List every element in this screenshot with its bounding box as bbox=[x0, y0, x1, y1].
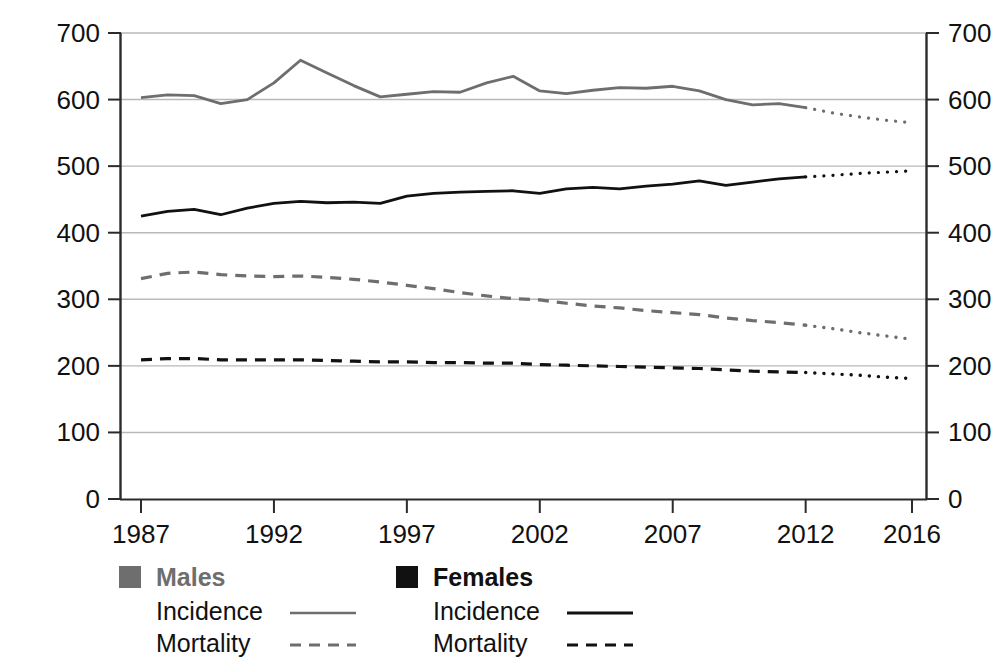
legend-title-females: Females bbox=[433, 563, 533, 591]
x-tick-label-2012: 2012 bbox=[777, 519, 835, 549]
legend-swatch-females bbox=[396, 566, 418, 588]
right-tick-label-300: 300 bbox=[948, 284, 991, 314]
left-tick-label-300: 300 bbox=[57, 284, 100, 314]
series-projection-males-incidence bbox=[806, 108, 912, 123]
series-projection-females-mortality bbox=[806, 373, 912, 379]
right-tick-label-500: 500 bbox=[948, 151, 991, 181]
legend-label-males-incidence: Incidence bbox=[156, 597, 263, 625]
right-tick-label-400: 400 bbox=[948, 218, 991, 248]
data-series-layer bbox=[141, 60, 912, 378]
legend-title-males: Males bbox=[156, 563, 225, 591]
x-tick-label-1987: 1987 bbox=[112, 519, 170, 549]
x-tick-marks bbox=[141, 500, 912, 513]
left-tick-label-500: 500 bbox=[57, 151, 100, 181]
chart-container: 0100200300400500600700 01002003004005006… bbox=[0, 0, 1000, 671]
chart-legend: Males Females Incidence Mortality Incide… bbox=[119, 563, 633, 657]
legend-label-females-incidence: Incidence bbox=[433, 597, 540, 625]
rate-trend-line-chart: 0100200300400500600700 01002003004005006… bbox=[0, 0, 1000, 671]
axis-lines bbox=[120, 33, 927, 500]
left-tick-label-200: 200 bbox=[57, 351, 100, 381]
right-tick-label-0: 0 bbox=[948, 484, 962, 514]
right-tick-label-600: 600 bbox=[948, 85, 991, 115]
right-axis-tick-labels: 0100200300400500600700 bbox=[948, 18, 991, 514]
left-tick-label-700: 700 bbox=[57, 18, 100, 48]
right-tick-label-100: 100 bbox=[948, 417, 991, 447]
x-axis-tick-labels: 1987199219972002200720122016 bbox=[112, 519, 941, 549]
left-tick-label-400: 400 bbox=[57, 218, 100, 248]
x-tick-label-2016: 2016 bbox=[883, 519, 941, 549]
series-projection-females-incidence bbox=[806, 171, 912, 177]
x-tick-label-2007: 2007 bbox=[644, 519, 702, 549]
left-tick-label-0: 0 bbox=[86, 484, 100, 514]
series-line-females-incidence bbox=[141, 177, 806, 216]
legend-label-females-mortality: Mortality bbox=[433, 629, 528, 657]
x-tick-label-1997: 1997 bbox=[378, 519, 436, 549]
left-tick-marks bbox=[108, 33, 121, 499]
x-tick-label-2002: 2002 bbox=[511, 519, 569, 549]
left-tick-label-600: 600 bbox=[57, 85, 100, 115]
x-tick-label-1992: 1992 bbox=[245, 519, 303, 549]
legend-label-males-mortality: Mortality bbox=[156, 629, 251, 657]
series-projection-males-mortality bbox=[806, 325, 912, 339]
left-axis-tick-labels: 0100200300400500600700 bbox=[57, 18, 100, 514]
left-tick-label-100: 100 bbox=[57, 417, 100, 447]
right-tick-marks bbox=[926, 33, 939, 499]
right-tick-label-700: 700 bbox=[948, 18, 991, 48]
series-line-males-incidence bbox=[141, 60, 806, 107]
right-tick-label-200: 200 bbox=[948, 351, 991, 381]
legend-swatch-males bbox=[119, 566, 141, 588]
